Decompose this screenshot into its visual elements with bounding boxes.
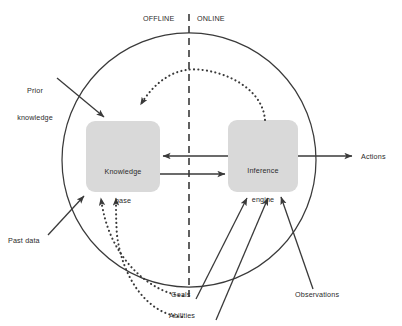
prior-knowledge-label-line1: Prior xyxy=(4,86,66,95)
past-data-label: Past data xyxy=(8,236,40,245)
knowledge-base-label: Knowledge base xyxy=(86,148,160,224)
observations-label: Observations xyxy=(295,290,339,299)
abilities-label: Abilities xyxy=(169,311,195,320)
knowledge-base-label-line1: Knowledge xyxy=(86,167,160,177)
prior-knowledge-label-line2: knowledge xyxy=(4,113,66,122)
edge-inference-to-knowledge-dotted xyxy=(141,69,265,120)
offline-zone-label: OFFLINE xyxy=(143,14,174,23)
goals-label: Goals xyxy=(171,290,191,299)
knowledge-base-label-line2: base xyxy=(86,196,160,206)
actions-label: Actions xyxy=(361,152,386,161)
edge-past-data-to-knowledge-base xyxy=(48,196,84,235)
inference-engine-label-line2: engine xyxy=(228,195,298,205)
diagram-canvas: OFFLINE ONLINE Knowledge base Inference … xyxy=(0,0,402,326)
inference-engine-label-line1: Inference xyxy=(228,166,298,176)
inference-engine-label: Inference engine xyxy=(228,147,298,223)
online-zone-label: ONLINE xyxy=(197,14,225,23)
prior-knowledge-label: Prior knowledge xyxy=(4,68,66,140)
diagram-vector-layer xyxy=(0,0,402,326)
